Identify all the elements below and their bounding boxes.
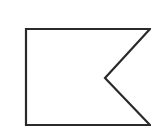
swallowtail-flag-shape	[26, 29, 150, 125]
diagram-canvas	[0, 0, 151, 130]
